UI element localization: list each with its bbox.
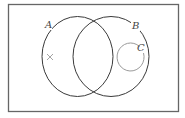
set-b-label: B (131, 20, 139, 31)
set-c-label: C (137, 42, 145, 53)
venn-diagram: A B C (0, 0, 185, 118)
set-a-circle (42, 17, 113, 97)
set-a-label: A (44, 19, 52, 30)
cross-marker-icon (47, 54, 53, 60)
